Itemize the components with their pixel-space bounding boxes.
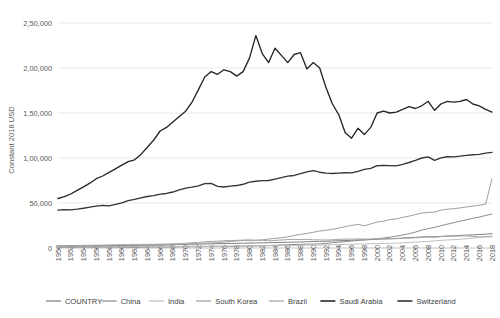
- x-axis-tick-label: 1988: [296, 245, 305, 261]
- y-axis-ticks: 050,0001,00,0001,50,0002,00,0002,50,000: [23, 19, 52, 253]
- x-axis-tick-label: 1978: [232, 245, 241, 261]
- x-axis-tick-label: 1974: [207, 245, 216, 261]
- x-axis-tick-label: 2012: [449, 245, 458, 261]
- x-axis-tick-label: 1972: [194, 245, 203, 261]
- line-chart: 050,0001,00,0001,50,0002,00,0002,50,000 …: [0, 0, 500, 318]
- x-axis-tick-label: 2018: [488, 245, 497, 261]
- x-axis-tick-label: 2000: [373, 245, 382, 261]
- legend-label-switzerland[interactable]: Switzerland: [416, 297, 455, 306]
- x-axis-tick-label: 1976: [220, 245, 229, 261]
- gridlines: [58, 23, 492, 248]
- x-axis-tick-label: 1994: [334, 245, 343, 261]
- x-axis-tick-label: 1996: [347, 245, 356, 261]
- x-axis-tick-label: 2016: [475, 245, 484, 261]
- x-axis-tick-label: 1998: [360, 245, 369, 261]
- plot-lines: [58, 36, 492, 248]
- x-axis-tick-label: 1980: [245, 245, 254, 261]
- x-axis-tick-label: 2008: [424, 245, 433, 261]
- legend-label-china[interactable]: China: [121, 297, 142, 306]
- x-axis-tick-label: 1982: [258, 245, 267, 261]
- x-axis-tick-label: 1990: [309, 245, 318, 261]
- y-axis-tick-label: 1,00,000: [23, 154, 52, 163]
- series-line-switzerland: [58, 152, 492, 210]
- legend-label-india[interactable]: India: [168, 297, 185, 306]
- legend-label-saudi-arabia[interactable]: Saudi Arabia: [339, 297, 383, 306]
- x-axis-tick-label: 2010: [437, 245, 446, 261]
- y-axis-tick-label: 50,000: [29, 199, 52, 208]
- x-axis-tick-label: 2006: [411, 245, 420, 261]
- chart-container: 050,0001,00,0001,50,0002,00,0002,50,000 …: [0, 0, 500, 318]
- series-line-brazil: [58, 236, 492, 246]
- x-axis-tick-label: 2014: [462, 245, 471, 261]
- y-axis-tick-label: 2,00,000: [23, 64, 52, 73]
- chart-legend: COUNTRYChinaIndiaSouth KoreaBrazilSaudi …: [46, 297, 456, 306]
- x-axis-tick-label: 1986: [283, 245, 292, 261]
- x-axis-tick-label: 2002: [385, 245, 394, 261]
- series-line-saudi-arabia: [58, 36, 492, 199]
- y-axis-title: Constant 2018 USD: [7, 106, 16, 174]
- x-axis-tick-label: 2004: [398, 245, 407, 261]
- y-axis-tick-label: 1,50,000: [23, 109, 52, 118]
- y-axis-tick-label: 0: [48, 244, 52, 253]
- legend-label-south-korea[interactable]: South Korea: [215, 297, 258, 306]
- x-axis-tick-label: 1984: [271, 245, 280, 261]
- y-axis-tick-label: 2,50,000: [23, 19, 52, 28]
- legend-label-brazil[interactable]: Brazil: [288, 297, 307, 306]
- legend-label-country[interactable]: COUNTRY: [65, 297, 102, 306]
- x-axis-tick-label: 1992: [322, 245, 331, 261]
